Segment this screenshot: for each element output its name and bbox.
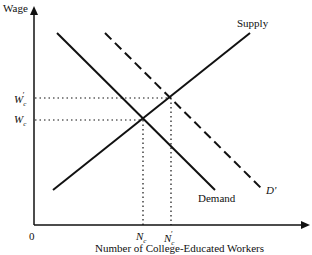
x-axis-arrow-icon — [301, 221, 310, 229]
diagram-canvas — [0, 0, 312, 255]
d-prime-label: D' — [266, 184, 276, 196]
demand-label: Demand — [198, 192, 235, 204]
supply-curve — [53, 33, 250, 190]
origin-label: 0 — [29, 230, 35, 242]
demand-curve — [57, 33, 215, 190]
y-axis-arrow-icon — [30, 6, 38, 15]
x-axis-label: Number of College-Educated Workers — [95, 242, 264, 254]
supply-label: Supply — [237, 17, 268, 29]
d-prime-curve — [105, 33, 263, 190]
supply-demand-diagram: Wage Supply Demand D' Wc′ Wc 0 Nc Nc′ Nu… — [0, 0, 312, 255]
wc-label: Wc — [14, 113, 26, 128]
y-axis-label: Wage — [3, 2, 28, 14]
wc-prime-label: Wc′ — [14, 91, 24, 108]
